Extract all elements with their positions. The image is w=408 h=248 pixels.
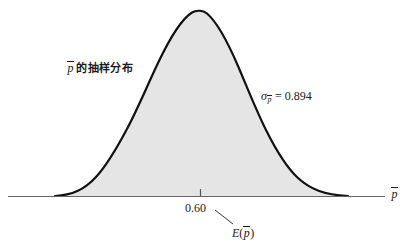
x-axis-variable: p xyxy=(391,188,398,200)
distribution-figure: p的抽样分布 σp = 0.894 0.60 E(p) p xyxy=(0,0,408,248)
standard-deviation-annotation: σp = 0.894 xyxy=(261,90,312,104)
distribution-caption-text: 的抽样分布 xyxy=(76,62,133,75)
x-axis-name-label: p xyxy=(391,188,398,200)
expectation-close-paren: ) xyxy=(250,226,254,240)
distribution-caption: p的抽样分布 xyxy=(67,62,133,74)
expected-value-label: E(p) xyxy=(232,227,254,239)
distribution-caption-variable: p xyxy=(67,62,74,74)
expectation-variable: p xyxy=(243,227,250,239)
sigma-value: 0.894 xyxy=(285,89,312,103)
sigma-equals-sign: = xyxy=(275,89,282,103)
mean-tick-value-label: 0.60 xyxy=(185,202,206,214)
sigma-subscript: p xyxy=(267,96,272,104)
expectation-leader-line xyxy=(215,210,233,224)
